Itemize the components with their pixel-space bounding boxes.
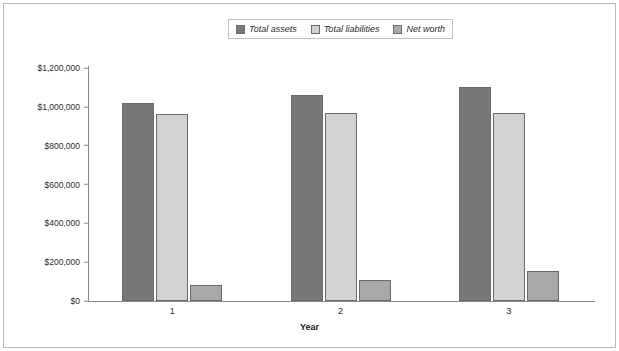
chart-legend: Total assets Total liabilities Net worth [228, 19, 453, 39]
bar-group [122, 103, 222, 301]
bar[interactable] [190, 285, 222, 301]
x-axis-line [88, 301, 595, 302]
y-axis-tick: $1,200,000 [37, 64, 88, 73]
legend-swatch-total-assets [236, 25, 245, 34]
bar-group [459, 87, 559, 301]
bar[interactable] [156, 114, 188, 301]
legend-item-total-liabilities: Total liabilities [311, 25, 380, 34]
x-axis-tick-label: 1 [170, 307, 175, 316]
bar[interactable] [527, 271, 559, 301]
legend-swatch-net-worth [393, 25, 402, 34]
y-axis-tick-label: $400,000 [45, 219, 84, 228]
y-axis-tick-label: $0 [71, 297, 84, 306]
bar[interactable] [459, 87, 491, 301]
y-axis-tick: $800,000 [45, 141, 88, 150]
y-axis-tick: $1,000,000 [37, 103, 88, 112]
y-axis-tick: $200,000 [45, 258, 88, 267]
y-axis-tick-mark [84, 184, 88, 185]
bar[interactable] [122, 103, 154, 301]
y-axis-tick: $600,000 [45, 180, 88, 189]
y-axis-tick-mark [84, 145, 88, 146]
legend-item-net-worth: Net worth [393, 25, 445, 34]
y-axis-tick-mark [84, 68, 88, 69]
y-axis-tick-mark [84, 223, 88, 224]
y-axis-tick-mark [84, 262, 88, 263]
y-axis-tick-mark [84, 106, 88, 107]
y-axis-tick: $0 [71, 297, 88, 306]
y-axis-tick-mark [84, 301, 88, 302]
y-axis-tick-label: $1,200,000 [37, 64, 84, 73]
bar[interactable] [325, 113, 357, 301]
bar[interactable] [359, 280, 391, 301]
legend-label-total-liabilities: Total liabilities [324, 25, 380, 34]
legend-swatch-total-liabilities [311, 25, 320, 34]
legend-label-total-assets: Total assets [249, 25, 297, 34]
y-axis-tick-label: $1,000,000 [37, 103, 84, 112]
y-axis-tick: $400,000 [45, 219, 88, 228]
y-axis-tick-label: $200,000 [45, 258, 84, 267]
bar[interactable] [291, 95, 323, 301]
x-axis-title: Year [0, 322, 619, 332]
plot-area: $0$200,000$400,000$600,000$800,000$1,000… [88, 68, 593, 301]
legend-item-total-assets: Total assets [236, 25, 297, 34]
chart-figure: Total assets Total liabilities Net worth… [0, 0, 619, 351]
y-axis-tick-label: $600,000 [45, 180, 84, 189]
bar-group [291, 95, 391, 301]
legend-label-net-worth: Net worth [406, 25, 445, 34]
x-axis-tick-label: 2 [338, 307, 343, 316]
y-axis-tick-label: $800,000 [45, 141, 84, 150]
x-axis-tick-label: 3 [506, 307, 511, 316]
bar[interactable] [493, 113, 525, 301]
